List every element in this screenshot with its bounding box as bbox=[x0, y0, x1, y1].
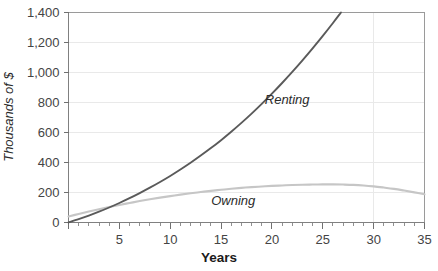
x-tick-label: 35 bbox=[417, 232, 431, 247]
series-group bbox=[69, 13, 425, 223]
y-tick-label: 800 bbox=[38, 95, 60, 110]
x-tick-label: 5 bbox=[116, 232, 123, 247]
line-chart: 02004006008001,0001,2001,400 51015202530… bbox=[0, 0, 438, 271]
series-label-owning: Owning bbox=[211, 193, 256, 208]
x-axis-ticks bbox=[69, 223, 425, 229]
x-axis-title: Years bbox=[201, 250, 237, 265]
y-tick-label: 1,000 bbox=[27, 65, 60, 80]
y-tick-label: 0 bbox=[52, 215, 59, 230]
x-tick-label: 10 bbox=[163, 232, 177, 247]
y-tick-label: 200 bbox=[38, 185, 60, 200]
x-tick-label: 15 bbox=[214, 232, 228, 247]
x-tick-label: 25 bbox=[316, 232, 330, 247]
y-tick-label: 1,200 bbox=[27, 35, 60, 50]
series-label-renting: Renting bbox=[265, 92, 311, 107]
y-tick-label: 400 bbox=[38, 155, 60, 170]
y-axis-tick-labels: 02004006008001,0001,2001,400 bbox=[27, 5, 60, 230]
x-axis-tick-labels: 5101520253035 bbox=[116, 232, 432, 247]
x-axis-group: 5101520253035 bbox=[69, 223, 432, 247]
y-axis-group: 02004006008001,0001,2001,400 bbox=[27, 5, 69, 230]
chart-container: 02004006008001,0001,2001,400 51015202530… bbox=[0, 0, 438, 271]
x-tick-label: 30 bbox=[366, 232, 380, 247]
y-axis-title: Thousands of $ bbox=[1, 71, 16, 161]
x-tick-label: 20 bbox=[265, 232, 279, 247]
y-axis-ticks bbox=[64, 13, 69, 223]
y-tick-label: 600 bbox=[38, 125, 60, 140]
y-tick-label: 1,400 bbox=[27, 5, 60, 20]
